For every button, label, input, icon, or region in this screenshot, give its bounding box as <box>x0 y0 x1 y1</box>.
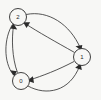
graph-svg: 2 1 0 <box>0 0 101 100</box>
node-layer: 2 1 0 <box>10 9 91 90</box>
edge-0-to-2 <box>10 23 17 72</box>
edge-2-to-1-path <box>26 14 80 49</box>
node-0[interactable]: 0 <box>13 73 30 90</box>
graph-canvas: 2 1 0 <box>0 0 101 100</box>
edge-2-to-1 <box>26 14 82 51</box>
edge-0-to-1 <box>28 63 82 91</box>
edge-1-to-0-path <box>30 62 75 81</box>
edge-2-to-0-path <box>6 25 14 76</box>
edge-1-to-2 <box>23 22 74 52</box>
edge-1-to-0 <box>27 62 74 83</box>
node-1[interactable]: 1 <box>74 49 91 66</box>
node-2[interactable]: 2 <box>10 9 27 26</box>
edge-2-to-0 <box>6 25 17 77</box>
edge-0-to-2-path <box>12 26 17 73</box>
